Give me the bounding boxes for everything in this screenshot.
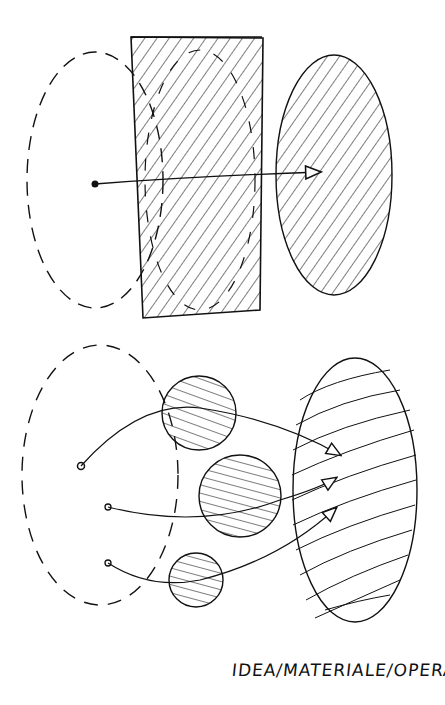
work-hatched-ellipse-top: [276, 55, 392, 295]
bottom-group: [22, 345, 417, 622]
concept-diagram: [0, 0, 445, 705]
material-circle-3: [169, 553, 223, 607]
material-circle-2: [199, 455, 281, 537]
caption: IDEA/MATERIALE/OPERA: [231, 660, 443, 680]
top-group: [27, 37, 392, 318]
idea-dashed-ellipse-bottom: [22, 345, 178, 605]
